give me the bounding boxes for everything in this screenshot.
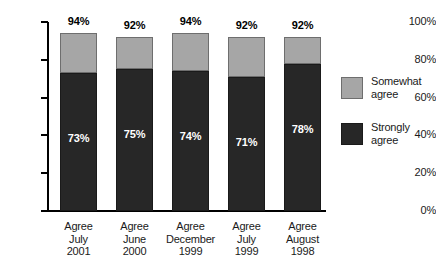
bar-total-label: 92%: [228, 20, 265, 31]
bar-segment-strongly-agree: [284, 64, 321, 211]
bar-segment-somewhat-agree: [284, 37, 321, 63]
stacked-bar-chart: 100%80%60%40%20%0% 73%94%AgreeJuly200175…: [0, 0, 436, 272]
x-axis-category-line-1: Agree: [264, 220, 342, 233]
chart-legend: Somewhat agree Strongly agree: [341, 75, 433, 167]
legend-label-somewhat-agree: Somewhat agree: [371, 75, 433, 100]
x-axis-category-label: AgreeAugust1998: [264, 220, 342, 258]
bar-value-label-strongly-agree: 75%: [116, 129, 153, 140]
legend-swatch-somewhat-agree: [341, 77, 363, 99]
bar-segment-somewhat-agree: [228, 37, 265, 77]
legend-label-line2: agree: [371, 134, 398, 146]
bar-value-label-strongly-agree: 74%: [172, 131, 209, 142]
legend-swatch-strongly-agree: [341, 123, 363, 145]
legend-item-somewhat-agree: Somewhat agree: [341, 75, 433, 121]
bar-value-label-strongly-agree: 71%: [228, 137, 265, 148]
bar-total-label: 94%: [60, 16, 97, 27]
legend-label-line1: Strongly: [371, 121, 410, 133]
x-axis-category-line-2: August: [264, 233, 342, 246]
legend-label-strongly-agree: Strongly agree: [371, 121, 433, 146]
bar-total-label: 92%: [116, 20, 153, 31]
bar-total-label: 94%: [172, 16, 209, 27]
bar-segment-somewhat-agree: [116, 37, 153, 69]
legend-label-line2: agree: [371, 88, 398, 100]
bar-segment-somewhat-agree: [60, 33, 97, 73]
bar-value-label-strongly-agree: 73%: [60, 133, 97, 144]
legend-label-line1: Somewhat: [371, 75, 421, 87]
bar-segment-somewhat-agree: [172, 33, 209, 71]
legend-item-strongly-agree: Strongly agree: [341, 121, 433, 167]
x-axis-category-line-3: 1998: [264, 245, 342, 258]
bar-value-label-strongly-agree: 78%: [284, 124, 321, 135]
bar-total-label: 92%: [284, 20, 321, 31]
